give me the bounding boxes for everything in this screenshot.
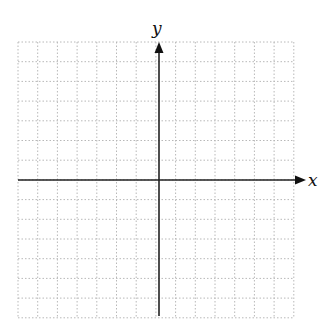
x-axis-arrow-icon xyxy=(295,176,306,185)
coordinate-plane: x y xyxy=(0,0,327,322)
y-axis-arrow-icon xyxy=(155,42,164,53)
y-axis-label: y xyxy=(151,18,162,38)
x-axis-label: x xyxy=(308,170,318,190)
